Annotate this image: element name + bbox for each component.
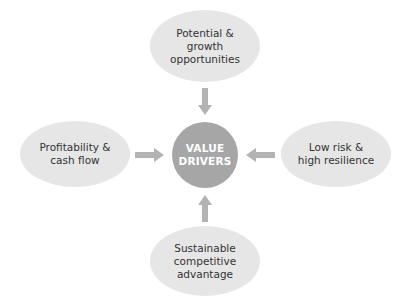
- node-label: Profitability &: [39, 141, 110, 154]
- arrow-right-icon: [135, 147, 165, 163]
- node-label: growth: [170, 40, 240, 53]
- node-potential-growth: Potential & growth opportunities: [150, 10, 260, 82]
- node-label: Potential &: [170, 27, 240, 40]
- node-label: Low risk &: [298, 141, 374, 154]
- center-label: DRIVERS: [178, 155, 231, 168]
- center-value-drivers: VALUE DRIVERS: [172, 122, 238, 188]
- node-label: Sustainable: [174, 242, 236, 255]
- node-profitability: Profitability & cash flow: [20, 121, 130, 187]
- node-label: competitive: [174, 255, 236, 268]
- node-low-risk: Low risk & high resilience: [281, 121, 391, 187]
- arrow-up-icon: [197, 194, 213, 222]
- arrow-down-icon: [197, 88, 213, 116]
- node-label: high resilience: [298, 154, 374, 167]
- node-label: cash flow: [39, 154, 110, 167]
- node-label: advantage: [174, 268, 236, 281]
- center-label: VALUE: [178, 142, 231, 155]
- node-sustainable-advantage: Sustainable competitive advantage: [150, 226, 260, 296]
- node-label: opportunities: [170, 53, 240, 66]
- arrow-left-icon: [245, 147, 275, 163]
